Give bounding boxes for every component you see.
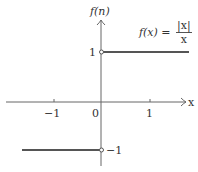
y-axis-label: f(n)	[90, 6, 110, 17]
open-endpoint-negative	[100, 148, 104, 152]
formula-numerator: |x|	[176, 20, 192, 33]
formula-denominator: x	[181, 33, 187, 45]
x-tick-label-0: 0	[92, 108, 99, 119]
x-axis-label: x	[188, 97, 194, 108]
y-tick-label-neg1: −1	[106, 145, 122, 156]
y-tick-label-1: 1	[89, 47, 96, 58]
formula-fraction: |x| x	[176, 20, 192, 45]
open-endpoint-positive	[100, 50, 104, 54]
x-tick-label-1: 1	[146, 108, 153, 119]
formula-lhs: f(x) =	[139, 27, 171, 38]
x-tick-label-neg1: −1	[44, 108, 60, 119]
